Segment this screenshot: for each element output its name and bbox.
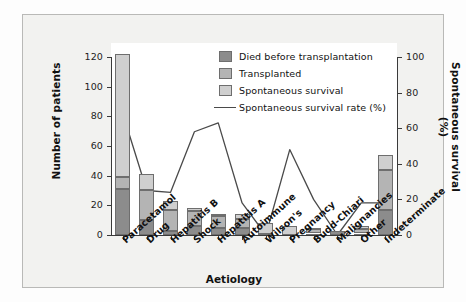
legend-item: Spontaneous survival rate (%): [219, 100, 399, 114]
legend-item-label: Died before transplantation: [239, 51, 373, 62]
y-axis-left-tick: [107, 116, 111, 117]
chart-panel: 120100806040200100806040200 Number of pa…: [22, 14, 444, 288]
x-axis-title: Aetiology: [23, 273, 445, 285]
y-axis-right-title: Spontaneous survival (%): [438, 52, 462, 202]
bar-segment: [378, 155, 393, 170]
y-axis-left-tick-label: 120: [71, 51, 103, 62]
y-axis-left-tick-label: 60: [71, 140, 103, 151]
legend-swatch-icon: [219, 51, 232, 62]
bar-paracetamol: [115, 54, 130, 235]
legend-item-label: Spontaneous survival: [239, 85, 343, 96]
bar-segment: [139, 174, 154, 190]
y-axis-right-tick-label: 100: [406, 51, 436, 62]
y-axis-left-title: Number of patients: [50, 51, 62, 191]
y-axis-left-tick: [107, 146, 111, 147]
chart-legend: Died before transplantationTransplantedS…: [219, 49, 399, 117]
y-axis-left-tick: [107, 57, 111, 58]
y-axis-left-tick-label: 40: [71, 170, 103, 181]
legend-item: Transplanted: [219, 66, 399, 80]
y-axis-left-tick: [107, 235, 111, 236]
bar-segment: [115, 54, 130, 177]
legend-swatch-icon: [219, 85, 232, 96]
y-axis-right-tick-label: 0: [406, 229, 436, 240]
bar-segment: [115, 177, 130, 189]
y-axis-left-tick: [107, 205, 111, 206]
legend-item-label: Transplanted: [239, 68, 301, 79]
chart-figure: 120100806040200100806040200 Number of pa…: [0, 0, 466, 302]
y-axis-right-tick: [398, 199, 402, 200]
y-axis-left-tick-label: 20: [71, 199, 103, 210]
y-axis-left-tick: [107, 87, 111, 88]
legend-swatch-icon: [219, 68, 232, 79]
y-axis-left-tick: [107, 176, 111, 177]
y-axis-left-line: [111, 57, 112, 236]
legend-item-label: Spontaneous survival rate (%): [239, 102, 386, 113]
y-axis-right-tick-label: 40: [406, 158, 436, 169]
y-axis-left-tick-label: 80: [71, 110, 103, 121]
y-axis-left-tick-label: 100: [71, 81, 103, 92]
legend-line-key-icon: [219, 102, 232, 113]
legend-item: Died before transplantation: [219, 49, 399, 63]
y-axis-right-tick: [398, 164, 402, 165]
y-axis-right-tick-label: 60: [406, 122, 436, 133]
y-axis-right-tick: [398, 128, 402, 129]
legend-item: Spontaneous survival: [219, 83, 399, 97]
y-axis-right-tick-label: 80: [406, 87, 436, 98]
y-axis-left-tick-label: 0: [71, 229, 103, 240]
